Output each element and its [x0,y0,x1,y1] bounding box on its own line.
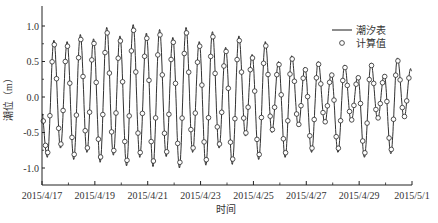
calculated-point [114,111,119,116]
calculated-point [283,150,288,155]
calculated-point [327,80,332,85]
calculated-point [175,141,180,146]
calculated-point [360,139,365,144]
calculated-point [376,116,381,121]
calculated-point [158,33,163,38]
calculated-point [96,137,101,142]
calculated-point [303,68,308,73]
calculated-point [195,60,200,65]
calculated-point [79,37,84,42]
calculated-point [186,70,191,75]
calculated-point [268,114,273,119]
calculated-point [213,71,218,76]
calculated-point [338,118,343,123]
calculated-point [45,150,50,155]
calculated-point [237,38,242,43]
calculated-point [43,143,48,148]
y-tick-label: 0.5 [27,56,40,67]
calculated-point [56,126,61,131]
y-tick-label: -1.0 [23,163,39,174]
calculated-point [387,136,392,141]
calculated-point [109,130,114,135]
calculated-point [272,105,277,110]
calculated-point [334,134,339,139]
calculated-point [224,49,229,54]
calculated-point [83,128,88,133]
calculated-point [160,73,165,78]
x-tick-label: 2015/4/21 [127,190,168,201]
x-tick-label: 2015/4/27 [286,190,327,201]
calculated-point [257,152,262,157]
calculated-point [65,44,70,49]
calculated-point [391,117,396,122]
calculated-point [400,105,405,110]
calculated-point [131,28,136,33]
calculated-point [173,81,178,86]
calculated-point [250,56,255,61]
calculated-point [239,70,244,75]
calculated-point [261,61,266,66]
chart-canvas: 1.00.50.0-0.5-1.0 2015/4/172015/4/192015… [0,0,438,223]
calculated-point [252,89,257,94]
calculated-point [365,121,370,126]
calculated-point [204,157,209,162]
calculated-point [189,127,194,132]
calculated-point [52,42,57,47]
calculated-point [142,54,147,59]
calculated-point [136,131,141,136]
calculated-point [255,137,260,142]
calculated-point [134,70,139,75]
calculated-point [270,127,275,132]
calculated-point [259,115,264,120]
x-tick-label: 2015/4/23 [180,190,221,201]
calculated-point [264,44,269,49]
calculated-point [178,160,183,165]
calculated-point [277,62,282,67]
calculated-point [290,57,295,62]
calculated-point [393,73,398,78]
calculated-point [90,58,95,63]
y-tick-label: 1.0 [27,21,40,32]
calculated-point [358,101,363,106]
calculated-point [310,146,315,151]
calculated-point [81,74,86,79]
calculated-point [233,116,238,121]
x-tick-label: 2015/4/25 [233,190,274,201]
legend-label-tide-table: 潮汐表 [356,24,386,36]
calculated-point [316,62,321,67]
calculated-point [151,159,156,164]
calculated-point [341,78,346,83]
calculated-point [226,86,231,91]
calculated-point [54,76,59,81]
calculated-point [164,150,169,155]
calculated-point [72,152,77,157]
calculated-point [169,57,174,62]
calculated-point [389,147,394,152]
calculated-point [70,135,75,140]
legend: 潮汐表 计算值 [332,24,386,49]
calculated-point [219,110,224,115]
calculated-point [347,109,352,114]
calculated-point [396,59,401,64]
x-axis-ticks: 2015/4/172015/4/192015/4/212015/4/232015… [22,181,430,201]
calculated-point [149,139,154,144]
calculated-point [200,83,205,88]
calculated-point [153,116,158,121]
calculated-point [138,150,143,155]
calculated-point [167,112,172,117]
calculated-point [193,111,198,116]
calculated-point [162,131,167,136]
calculated-point [76,55,81,60]
calculated-point [116,56,121,61]
calculated-point [127,114,132,119]
calculated-point [246,105,251,110]
x-tick-label: 2015/4/19 [75,190,116,201]
calculated-point [314,76,319,81]
calculated-point [330,73,335,78]
calculated-point [301,76,306,81]
calculated-point [180,116,185,121]
tide-chart: 1.00.50.0-0.5-1.0 2015/4/172015/4/192015… [0,0,438,223]
calculated-point [191,146,196,151]
calculated-point [308,134,313,139]
calculated-point [145,36,150,41]
